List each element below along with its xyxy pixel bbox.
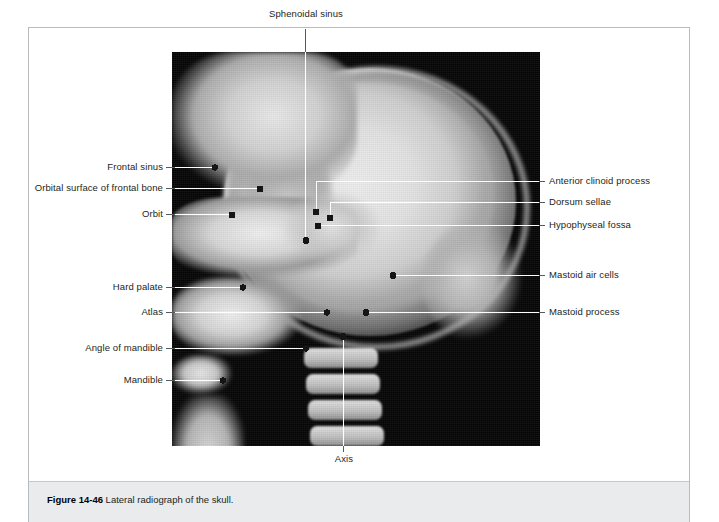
label-atlas: Atlas <box>13 306 163 317</box>
label-mastoid-air-cells: Mastoid air cells <box>549 269 619 280</box>
vertebra-shape <box>304 348 378 368</box>
label-dorsum-sellae: Dorsum sellae <box>549 196 611 207</box>
vertebra-shape <box>310 426 384 446</box>
mandibular-ramus-shape <box>172 395 244 446</box>
figure-caption: Figure 14-46 Lateral radiograph of the s… <box>47 494 233 505</box>
label-hard-palate: Hard palate <box>13 281 163 292</box>
figure-caption-number: Figure 14-46 <box>47 494 103 505</box>
label-anterior-clinoid-process: Anterior clinoid process <box>549 175 650 186</box>
label-hypophyseal-fossa: Hypophyseal fossa <box>549 219 631 230</box>
label-orbital-surface-of-frontal-bone: Orbital surface of frontal bone <box>3 182 163 193</box>
lateral-skull-radiograph-image <box>172 52 540 446</box>
vertebra-shape <box>306 374 380 394</box>
facial-skeleton-shape <box>172 52 357 197</box>
figure-caption-body: Lateral radiograph of the skull. <box>106 494 234 505</box>
figure-caption-band: Figure 14-46 Lateral radiograph of the s… <box>29 481 689 522</box>
vertebra-shape <box>308 400 382 420</box>
mastoid-region-shape <box>172 355 232 395</box>
label-mandible: Mandible <box>13 374 163 385</box>
petrous-temporal-shape <box>172 277 302 355</box>
label-axis: Axis <box>314 453 374 464</box>
sella-turcica-shape <box>284 192 380 266</box>
label-mastoid-process: Mastoid process <box>549 306 620 317</box>
label-orbit: Orbit <box>13 208 163 219</box>
label-sphenoidal-sinus: Sphenoidal sinus <box>246 8 366 19</box>
figure-page: Frontal sinus Orbital surface of frontal… <box>0 0 719 522</box>
label-frontal-sinus: Frontal sinus <box>13 161 163 172</box>
label-angle-of-mandible: Angle of mandible <box>13 342 163 353</box>
occipital-bone-shape <box>422 222 532 342</box>
